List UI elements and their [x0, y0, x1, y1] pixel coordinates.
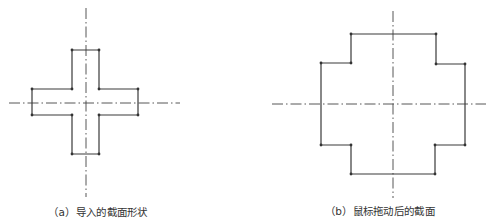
vertex-handle [137, 114, 140, 117]
vertex-handle [464, 144, 467, 147]
vertex-handle [350, 144, 353, 147]
vertex-handle [71, 49, 74, 52]
vertex-handle [71, 114, 74, 117]
vertex-handle [350, 173, 353, 176]
figure-a-caption: （a）导入的截面形状 [48, 204, 147, 219]
vertex-handle [435, 63, 438, 66]
vertex-handle [98, 153, 101, 156]
figure-a-section-outline [32, 50, 138, 154]
vertex-handle [137, 88, 140, 91]
vertex-handle [71, 88, 74, 91]
cross-section-diagram [0, 0, 493, 221]
vertex-handle [98, 88, 101, 91]
vertex-handle [434, 173, 437, 176]
vertex-handle [71, 153, 74, 156]
vertex-handle [434, 144, 437, 147]
figure-a-imported-section [9, 8, 180, 197]
vertex-handle [98, 114, 101, 117]
vertex-handle [350, 62, 353, 65]
vertex-handle [98, 49, 101, 52]
vertex-handle [350, 33, 353, 36]
vertex-handle [320, 144, 323, 147]
vertex-handle [320, 62, 323, 65]
figure-b-caption: （b）鼠标拖动后的截面 [325, 203, 435, 218]
vertex-handle [435, 33, 438, 36]
vertex-handle [31, 88, 34, 91]
vertex-handle [31, 114, 34, 117]
figure-a-vertex-handles [31, 49, 140, 156]
vertex-handle [464, 63, 467, 66]
figure-b-dragged-section [272, 11, 486, 198]
